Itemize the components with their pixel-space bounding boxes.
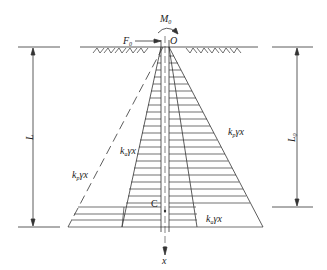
label-O: O: [170, 35, 177, 46]
pile: [161, 36, 169, 248]
label-L: L: [24, 134, 35, 141]
label-M0: M0: [159, 13, 171, 25]
dimension-L0: [272, 47, 313, 207]
label-kp-right: kpγx: [228, 126, 244, 138]
force-arrow: [135, 39, 161, 43]
x-axis-arrow: [163, 247, 167, 255]
label-F0: F0: [122, 35, 132, 47]
passive-pressure-zone-right: [169, 47, 263, 227]
label-x: x: [161, 255, 167, 266]
label-L0: L0: [286, 133, 298, 143]
pile-earth-pressure-diagram: M0 F0 O L L0 C x kpγx kaγx kpγx kaγx: [0, 0, 327, 270]
passive-pressure-line-left: [68, 47, 163, 227]
soil-hatch-left: [93, 48, 148, 53]
soil-hatch-right: [186, 48, 241, 53]
label-C: C: [151, 198, 158, 209]
label-ka-right: kaγx: [206, 213, 222, 225]
label-kp-left: kpγx: [72, 169, 88, 181]
moment-arrow: [158, 28, 178, 34]
rotation-point-C: [164, 210, 166, 212]
active-zone-bottom-right: [169, 207, 197, 220]
label-ka-left: kaγx: [120, 145, 136, 157]
